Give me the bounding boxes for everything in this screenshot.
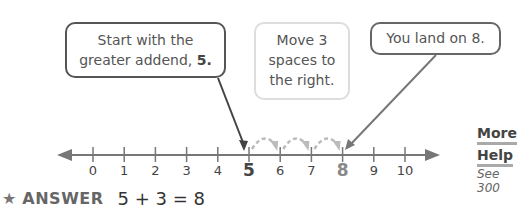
more-help[interactable]: More Help See 300 bbox=[477, 123, 517, 195]
more-help-title-1[interactable]: More bbox=[477, 125, 517, 145]
tick-label: 7 bbox=[301, 163, 321, 178]
tick-label: 6 bbox=[270, 163, 290, 178]
pointer-start bbox=[218, 78, 244, 145]
tick-label: 9 bbox=[364, 163, 384, 178]
tick-label: 2 bbox=[145, 163, 165, 178]
answer-row: ★ ANSWER 5 + 3 = 8 bbox=[2, 186, 205, 210]
jump-arrowhead-icon bbox=[301, 141, 309, 151]
pointer-start-arrowhead bbox=[239, 140, 248, 151]
star-icon: ★ bbox=[2, 189, 16, 208]
jump-arrowhead-icon bbox=[270, 141, 278, 151]
tick-label: 1 bbox=[114, 163, 134, 178]
left-arrow-icon bbox=[57, 149, 72, 161]
answer-label: ANSWER bbox=[22, 189, 103, 208]
pointer-land bbox=[350, 55, 436, 145]
tick-label: 3 bbox=[177, 163, 197, 178]
more-help-page: 300 bbox=[477, 181, 517, 195]
tick-label: 4 bbox=[208, 163, 228, 178]
jumps bbox=[252, 138, 341, 151]
more-help-see: See bbox=[477, 167, 517, 181]
number-line bbox=[0, 0, 524, 211]
jump-arrowhead-icon bbox=[333, 141, 341, 151]
tick-label: 8 bbox=[333, 160, 353, 180]
tick-label: 0 bbox=[83, 163, 103, 178]
more-help-title-2[interactable]: Help bbox=[477, 147, 513, 167]
answer-equation: 5 + 3 = 8 bbox=[118, 188, 205, 209]
tick-label: 5 bbox=[239, 160, 259, 180]
right-arrow-icon bbox=[425, 149, 440, 161]
tick-label: 10 bbox=[395, 163, 415, 178]
